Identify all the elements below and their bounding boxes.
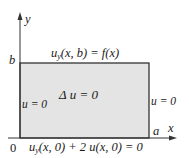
y-axis-label: y [25, 13, 31, 26]
right-boundary-condition: u = 0 [151, 96, 176, 108]
left-boundary-condition: u = 0 [22, 99, 47, 111]
y-axis-arrow-icon [18, 12, 23, 20]
x-axis-arrow-icon [169, 136, 177, 141]
x-mark-a-label: a [153, 125, 159, 138]
y-mark-b-label: b [9, 54, 15, 67]
x-axis-label: x [168, 122, 174, 135]
origin-label: 0 [10, 142, 16, 155]
bottom-boundary-condition: uy(x, 0) + 2 u(x, 0) = 0 [29, 141, 143, 155]
laplace-equation: Δ u = 0 [59, 88, 98, 101]
top-boundary-condition: uy(x, b) = f(x) [51, 47, 119, 61]
